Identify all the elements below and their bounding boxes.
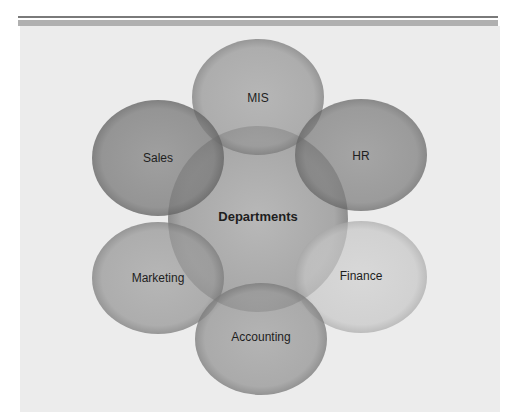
node-label-hr: HR [352,149,370,163]
center-label: Departments [218,209,297,224]
node-label-finance: Finance [340,269,383,283]
node-label-marketing: Marketing [132,271,185,285]
departments-diagram: MIS HR Finance Accounting Marketing Sale… [0,0,512,420]
node-label-accounting: Accounting [231,330,290,344]
node-label-sales: Sales [143,151,173,165]
node-label-mis: MIS [247,91,268,105]
